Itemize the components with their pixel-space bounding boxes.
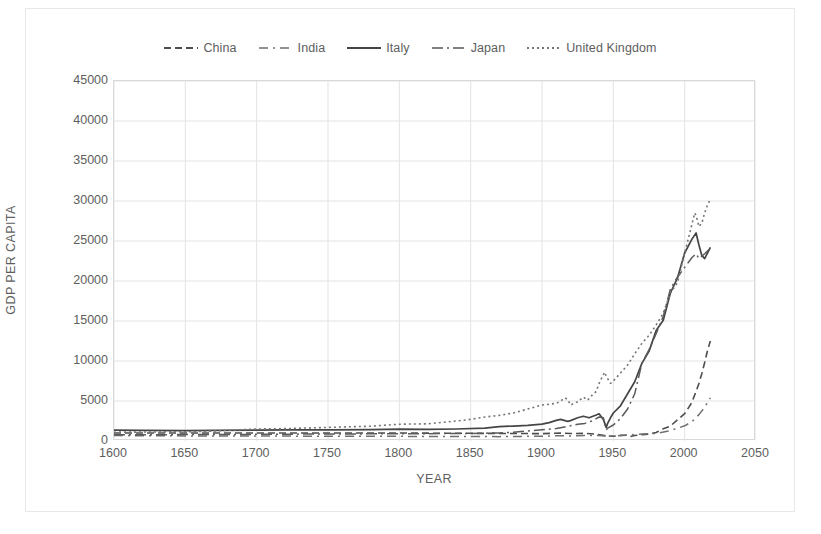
- x-tick-label: 1850: [456, 446, 484, 460]
- x-tick-label: 1700: [242, 446, 270, 460]
- y-tick-label: 20000: [73, 273, 108, 287]
- x-axis-tick-labels: 1600165017001750180018501900195020002050: [113, 446, 755, 464]
- series-line-china: [114, 341, 710, 437]
- y-tick-label: 10000: [73, 353, 108, 367]
- plot-area: [113, 80, 755, 440]
- x-tick-label: 1900: [527, 446, 555, 460]
- legend-label: Japan: [471, 41, 506, 55]
- legend-label: India: [298, 41, 326, 55]
- legend-label: Italy: [386, 41, 409, 55]
- legend-item-china[interactable]: China: [164, 41, 236, 55]
- chart-root: ChinaIndiaItalyJapanUnited Kingdom GDP P…: [0, 0, 821, 534]
- y-axis-title: GDP PER CAPITA: [0, 80, 22, 440]
- legend-swatch-icon: [347, 43, 381, 53]
- legend-swatch-icon: [432, 43, 466, 53]
- series-line-japan: [114, 248, 710, 435]
- y-tick-label: 15000: [73, 313, 108, 327]
- legend-swatch-icon: [527, 43, 561, 53]
- y-tick-label: 35000: [73, 153, 108, 167]
- legend-label: China: [203, 41, 236, 55]
- x-axis-title: YEAR: [113, 472, 755, 486]
- chart-canvas: [114, 81, 756, 441]
- legend-item-united-kingdom[interactable]: United Kingdom: [527, 41, 656, 55]
- legend-item-italy[interactable]: Italy: [347, 41, 409, 55]
- series-line-united-kingdom: [114, 199, 710, 432]
- y-tick-label: 0: [101, 433, 108, 447]
- legend-item-japan[interactable]: Japan: [432, 41, 506, 55]
- y-tick-label: 45000: [73, 73, 108, 87]
- legend-item-india[interactable]: India: [259, 41, 326, 55]
- x-tick-label: 1800: [384, 446, 412, 460]
- y-tick-label: 40000: [73, 113, 108, 127]
- legend-swatch-icon: [164, 43, 198, 53]
- y-tick-label: 30000: [73, 193, 108, 207]
- legend-label: United Kingdom: [566, 41, 656, 55]
- legend-swatch-icon: [259, 43, 293, 53]
- x-tick-label: 1600: [99, 446, 127, 460]
- chart-legend: ChinaIndiaItalyJapanUnited Kingdom: [0, 38, 821, 58]
- y-tick-label: 25000: [73, 233, 108, 247]
- x-tick-label: 2050: [741, 446, 769, 460]
- x-tick-label: 2000: [670, 446, 698, 460]
- x-tick-label: 1750: [313, 446, 341, 460]
- y-axis-tick-labels: 0500010000150002000025000300003500040000…: [50, 80, 108, 440]
- x-tick-label: 1950: [598, 446, 626, 460]
- y-tick-label: 5000: [80, 393, 108, 407]
- x-tick-label: 1650: [170, 446, 198, 460]
